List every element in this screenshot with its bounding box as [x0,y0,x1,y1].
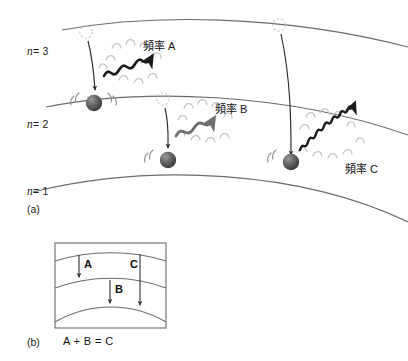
frequency-label-b: 頻率 B [215,100,247,116]
inset-panel [55,243,166,328]
transition-arrow-C [281,34,291,155]
level-label-n1-value: = 1 [33,185,49,197]
inset-arrow-label-a: A [84,258,92,270]
energy-level-transition-diagram [0,0,408,361]
transition-arrow-B [165,108,168,148]
level-label-n3: n= 3 [27,45,48,57]
frequency-label-a: 頻率 A [143,37,175,53]
orbit-arc-n1 [33,175,408,222]
orbit-arc-n3 [62,20,408,47]
vacated-state-markers [80,19,285,105]
inset-arrow-label-b: B [115,283,123,295]
inset-arrow-label-c: C [130,258,138,270]
transition-arrows [88,34,291,155]
panel-b-caption: (b) [27,336,40,348]
vacancy-circle-n2-mid [157,93,169,105]
panel-a-caption: (a) [27,203,40,215]
level-label-n1: n= 1 [27,185,48,197]
inset-equation: A + B = C [63,335,114,347]
level-label-n2: n= 2 [27,118,48,130]
level-label-n2-value: = 2 [33,118,49,130]
electron-on-n1-right [268,150,300,170]
transition-arrow-A [88,41,95,90]
photon-A-squiggle [104,58,151,76]
photon-B-squiggle [176,120,213,136]
level-label-n3-value: = 3 [33,45,49,57]
frequency-label-c: 頻率 C [345,160,378,176]
photon-C-flourishes [298,109,364,158]
electron-on-n1-middle [145,150,177,168]
orbit-arcs [33,20,408,222]
vacancy-circle-n3-left [80,26,92,38]
